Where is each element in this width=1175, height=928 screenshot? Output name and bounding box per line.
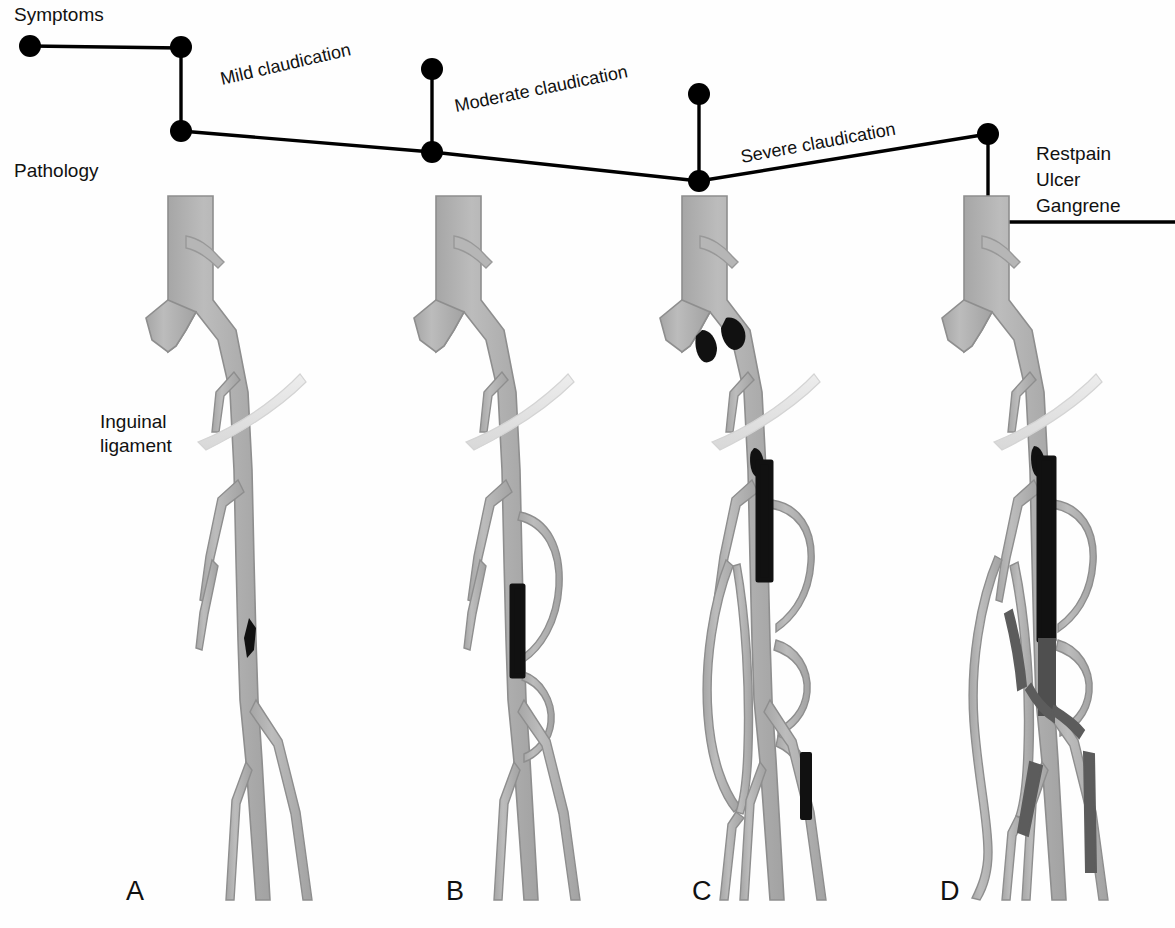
step-segment-baseline: [30, 46, 181, 48]
aorta-iliac-trunk-b: [436, 196, 538, 900]
lesion-long-occlusion-c: [758, 462, 771, 580]
step-segment-mild: [181, 131, 432, 152]
collateral-lateral-inner-c: [733, 564, 753, 814]
panel-letter-c: C: [692, 876, 712, 906]
inguinal-ligament-label: Inguinal ligament: [100, 411, 173, 456]
outcome-ulcer: Ulcer: [1036, 169, 1081, 190]
outcome-label-block: Restpain Ulcer Gangrene: [1036, 143, 1121, 216]
panel-c-artery: [660, 196, 826, 900]
inguinal-ligament-line2: ligament: [100, 435, 173, 456]
inguinal-ligament-line1: Inguinal: [100, 411, 167, 432]
figure-root: Symptoms Pathology: [0, 0, 1175, 928]
panel-a-artery: [146, 196, 312, 900]
lesion-sfa-occlusion-d: [1039, 458, 1054, 640]
step-node-rise-d[interactable]: [977, 123, 999, 145]
lesion-iliac-plaque-right-c: [695, 330, 717, 362]
axis-label-symptoms: Symptoms: [14, 4, 104, 25]
panel-d-artery: [942, 196, 1108, 900]
medial-tibial-b: [494, 762, 520, 900]
outcome-restpain: Restpain: [1036, 143, 1111, 164]
lesion-tibial-occlusion-c: [802, 754, 810, 818]
aorta-iliac-trunk-a: [168, 196, 270, 900]
collateral-serpiginous-d: [969, 556, 1002, 900]
lesion-segmental-occlusion-b: [512, 586, 523, 676]
step-node-rise-b[interactable]: [421, 58, 443, 80]
step-label-severe: Severe claudication: [739, 119, 897, 167]
panel-letter-b: B: [446, 876, 464, 906]
lesion-peroneal-d: [1084, 752, 1096, 872]
collateral-medial-upper-c: [770, 500, 814, 632]
pad-progression-figure: Symptoms Pathology: [0, 0, 1175, 928]
collateral-lateral-long-c: [703, 560, 740, 812]
step-label-moderate: Moderate claudication: [453, 61, 630, 116]
step-node-baseline-right[interactable]: [170, 36, 192, 58]
step-node-drop-c[interactable]: [688, 170, 710, 192]
step-node-drop-b[interactable]: [421, 141, 443, 163]
step-label-mild: Mild claudication: [218, 39, 352, 88]
panel-b-artery: [414, 196, 580, 900]
step-node-rise-c[interactable]: [688, 83, 710, 105]
outcome-gangrene: Gangrene: [1036, 195, 1121, 216]
step-segment-moderate-lower: [432, 152, 699, 181]
step-node-baseline-left[interactable]: [19, 35, 41, 57]
axis-label-pathology: Pathology: [14, 160, 99, 181]
medial-tibial-a: [226, 762, 252, 900]
collateral-medial-upper-d: [1052, 500, 1096, 632]
step-node-drop-a[interactable]: [170, 120, 192, 142]
panel-letter-a: A: [126, 876, 144, 906]
panel-letter-d: D: [940, 876, 960, 906]
